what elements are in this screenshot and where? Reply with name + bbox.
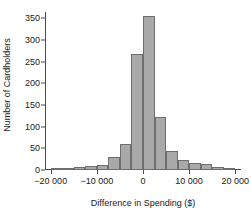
histogram-bar [51,168,63,170]
y-axis-title: Number of Cardholders [0,0,14,170]
y-tick-label: 150 [25,100,40,110]
histogram-bar [143,16,155,170]
histogram-bar [108,157,120,170]
y-tick-label: 350 [25,13,40,23]
histogram-bar [120,144,132,170]
y-tick-label: 300 [25,35,40,45]
y-tick-label: 0 [35,165,40,175]
x-tick-label: −20 000 [34,176,67,186]
histogram-bar [62,168,74,170]
y-tick-label: 100 [25,122,40,132]
histogram-bar [212,167,224,170]
x-tick-label: 10 000 [175,176,203,186]
x-tick-mark [51,170,52,174]
histogram-bar [131,54,143,170]
y-tick-label: 200 [25,78,40,88]
histogram-bar [97,165,109,170]
x-axis-title: Difference in Spending ($) [45,198,241,208]
x-tick-label: 20 000 [221,176,249,186]
y-tick-label: 50 [30,143,40,153]
y-axis-title-text: Number of Cardholders [2,38,12,132]
x-tick-mark [97,170,98,174]
histogram-bars [45,12,241,170]
histogram-bar [178,160,190,170]
x-tick-mark [189,170,190,174]
plot-area: 050100150200250300350 −20 000−10 000010 … [45,12,241,170]
x-tick-label: 0 [140,176,145,186]
x-tick-label: −10 000 [80,176,113,186]
histogram-bar [155,117,167,170]
histogram-bar [166,151,178,170]
x-axis-title-text: Difference in Spending ($) [91,198,195,208]
histogram-bar [85,166,97,170]
x-tick-mark [143,170,144,174]
histogram-figure: Number of Cardholders 050100150200250300… [0,0,251,221]
histogram-bar [74,167,86,170]
x-tick-mark [235,170,236,174]
histogram-bar [224,168,236,170]
y-tick-label: 250 [25,57,40,67]
histogram-bar [201,164,213,170]
histogram-bar [189,163,201,170]
